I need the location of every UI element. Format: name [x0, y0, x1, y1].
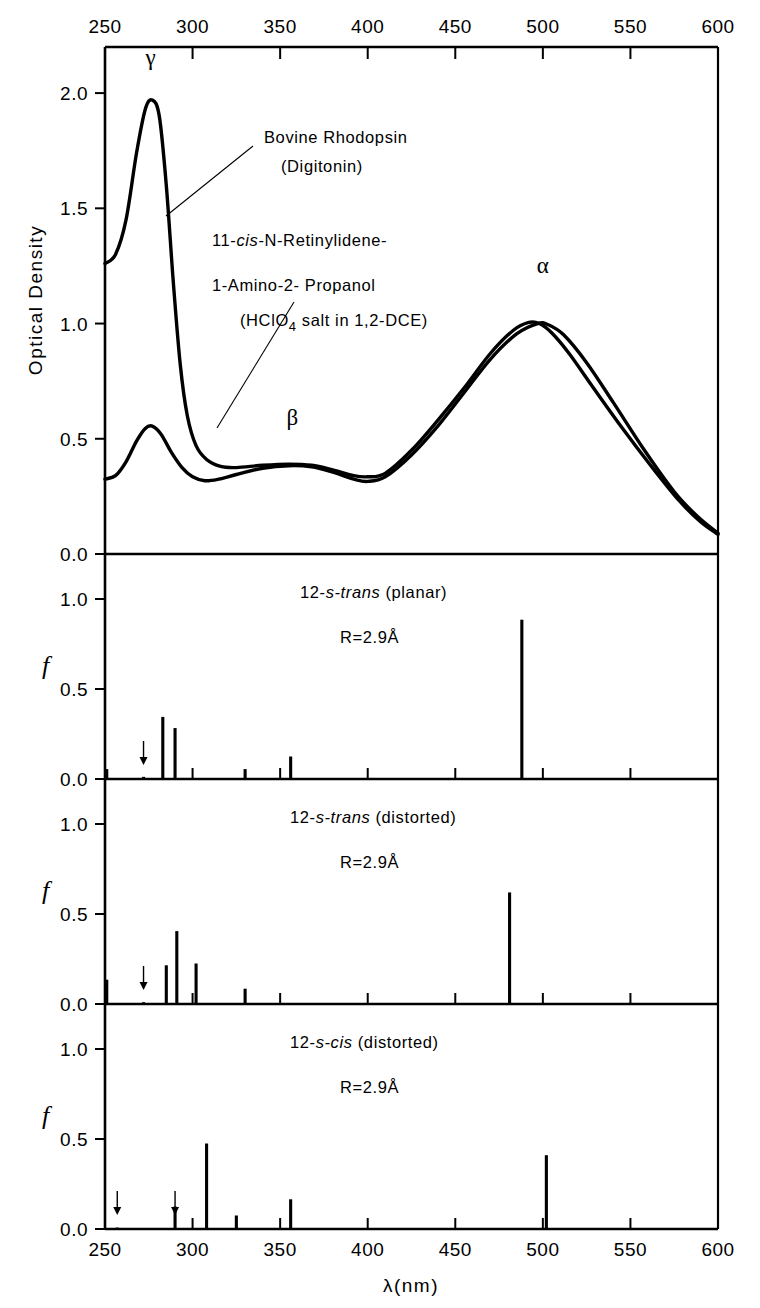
p2-subtitle: R=2.9Å: [340, 628, 399, 646]
assignment-arrow-head: [140, 982, 148, 990]
top-axis-tick-label: 500: [526, 16, 559, 37]
y-axis-tick-label: 0.5: [60, 1129, 88, 1150]
y-axis-tick-label: 1.0: [60, 1039, 88, 1060]
assignment-arrow-head: [140, 757, 148, 765]
p2-title: 12-s-trans (planar): [300, 583, 447, 601]
rhodopsin-label-line1: Bovine Rhodopsin: [264, 128, 408, 146]
p4-x-axis-ticks: [105, 1218, 718, 1229]
top-axis-tick-labels: 250300350400450500550600: [88, 16, 734, 37]
top-axis-tick-label: 400: [351, 16, 384, 37]
bottom-axis-tick-label: 400: [351, 1239, 384, 1260]
od-y-axis-ticks: [95, 93, 105, 554]
od-y-tick-label: 1.5: [60, 198, 88, 219]
assignment-arrow-head: [171, 1207, 179, 1215]
p3-title: 12-s-trans (distorted): [290, 808, 456, 826]
panel-12-s-trans-planar: 0.00.51.0 f 12-s-trans (planar) R=2.9Å: [42, 554, 718, 790]
top-axis-ticks: [105, 47, 718, 59]
p2-y-axis-tick-labels: 0.00.51.0: [60, 589, 88, 790]
x-axis-title: λ(nm): [383, 1275, 439, 1296]
top-axis-tick-label: 300: [176, 16, 209, 37]
top-axis-tick-label: 350: [264, 16, 297, 37]
figure-root: 250300350400450500550600 0.00.51.01.52.0…: [0, 0, 760, 1308]
p4-title: 12-s-cis (distorted): [290, 1033, 439, 1051]
p3-subtitle: R=2.9Å: [340, 853, 399, 871]
y-axis-tick-label: 1.0: [60, 814, 88, 835]
retinylidene-label-line3: (HClO4 salt in 1,2-DCE): [240, 311, 428, 334]
curve-retinylidene-propanol: [105, 323, 718, 534]
p3-arrow-markers: [140, 966, 148, 990]
y-axis-tick-label: 0.0: [60, 994, 88, 1015]
bottom-axis-tick-label: 250: [88, 1239, 121, 1260]
p3-y-axis-ticks: [95, 824, 105, 1004]
beta-peak-label: β: [287, 405, 299, 430]
p4-y-axis-ticks: [95, 1049, 105, 1229]
panel-optical-density: 0.00.51.01.52.0 Optical Density γ β α Bo…: [25, 45, 718, 565]
gamma-peak-label: γ: [144, 45, 155, 70]
bottom-axis-tick-label: 500: [526, 1239, 559, 1260]
od-y-axis-tick-labels: 0.00.51.01.52.0: [60, 83, 88, 565]
panel-12-s-cis-distorted: 0.00.51.0 f 12-s-cis (distorted) R=2.9Å …: [42, 1004, 735, 1296]
alpha-peak-label: α: [537, 253, 549, 278]
p2-arrow-markers: [140, 741, 148, 765]
p4-stick-spectrum: [117, 1144, 546, 1230]
panel-12-s-trans-distorted: 0.00.51.0 f 12-s-trans (distorted) R=2.9…: [42, 779, 718, 1015]
top-axis: 250300350400450500550600: [88, 16, 734, 59]
p4-arrow-markers: [113, 1191, 179, 1215]
od-y-tick-label: 1.0: [60, 314, 88, 335]
bottom-axis-tick-label: 550: [614, 1239, 647, 1260]
od-y-axis-title: Optical Density: [25, 225, 46, 375]
bottom-axis-tick-labels: 250300350400450500550600: [88, 1239, 734, 1260]
od-y-tick-label: 0.5: [60, 429, 88, 450]
top-axis-tick-label: 600: [701, 16, 734, 37]
p2-stick-spectrum: [107, 620, 522, 779]
top-axis-tick-label: 250: [88, 16, 121, 37]
y-axis-tick-label: 0.0: [60, 1219, 88, 1240]
bottom-axis-tick-label: 450: [439, 1239, 472, 1260]
leader-line-rhodopsin: [166, 146, 253, 216]
retinylidene-label-line2: 1-Amino-2- Propanol: [212, 276, 376, 294]
p2-x-axis-ticks: [105, 768, 718, 779]
retinylidene-label-line1: 11-cis-N-Retinylidene-: [212, 231, 387, 249]
p3-y-axis-tick-labels: 0.00.51.0: [60, 814, 88, 1015]
od-y-tick-label: 0.0: [60, 544, 88, 565]
p2-y-axis-label: f: [42, 651, 53, 680]
y-axis-tick-label: 0.5: [60, 679, 88, 700]
top-axis-tick-label: 450: [439, 16, 472, 37]
top-axis-tick-label: 550: [614, 16, 647, 37]
bottom-axis-tick-label: 300: [176, 1239, 209, 1260]
bottom-axis-tick-label: 350: [264, 1239, 297, 1260]
spectra-figure: 250300350400450500550600 0.00.51.01.52.0…: [0, 0, 760, 1308]
p4-y-axis-label: f: [42, 1101, 53, 1130]
assignment-arrow-head: [113, 1207, 121, 1215]
od-y-tick-label: 2.0: [60, 83, 88, 104]
p4-subtitle: R=2.9Å: [340, 1078, 399, 1096]
p3-y-axis-label: f: [42, 876, 53, 905]
y-axis-tick-label: 0.0: [60, 769, 88, 790]
y-axis-tick-label: 0.5: [60, 904, 88, 925]
p4-y-axis-tick-labels: 0.00.51.0: [60, 1039, 88, 1240]
p3-stick-spectrum: [107, 892, 510, 1004]
p2-y-axis-ticks: [95, 599, 105, 779]
rhodopsin-label-line2: (Digitonin): [281, 157, 363, 175]
bottom-axis-tick-label: 600: [701, 1239, 734, 1260]
y-axis-tick-label: 1.0: [60, 589, 88, 610]
